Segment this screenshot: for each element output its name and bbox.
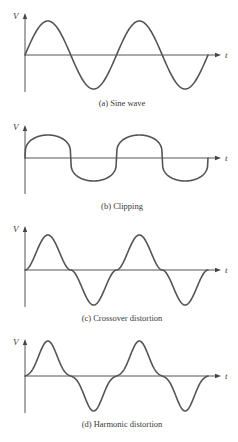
y-axis-arrow-icon xyxy=(23,226,27,232)
x-axis-label: t xyxy=(225,153,228,163)
panel-caption: (d) Harmonic distortion xyxy=(82,419,163,429)
y-axis-arrow-icon xyxy=(23,339,27,345)
y-axis-arrow-icon xyxy=(23,13,27,19)
panel-caption: (c) Crossover distortion xyxy=(82,313,163,323)
x-axis-arrow-icon xyxy=(215,374,221,378)
panel-caption: (b) Clipping xyxy=(101,201,144,211)
x-axis-arrow-icon xyxy=(215,156,221,160)
x-axis-label: t xyxy=(225,265,228,275)
y-axis-label: V xyxy=(13,11,20,21)
x-axis-arrow-icon xyxy=(215,268,221,272)
x-axis-label: t xyxy=(225,50,228,60)
y-axis-label: V xyxy=(13,337,20,347)
panel-clipping: V t (b) Clipping xyxy=(13,122,228,211)
y-axis-arrow-icon xyxy=(23,125,27,131)
panel-crossover-distortion: V t (c) Crossover distortion xyxy=(13,224,228,323)
x-axis-arrow-icon xyxy=(215,53,221,57)
waveform-distortion-figure: V t (a) Sine wave V t (b) Clipping V t (… xyxy=(0,0,238,442)
panel-sine-wave: V t (a) Sine wave xyxy=(13,11,228,108)
panel-harmonic-distortion: V t (d) Harmonic distortion xyxy=(13,337,228,429)
y-axis-label: V xyxy=(13,224,20,234)
x-axis-label: t xyxy=(225,371,228,381)
panel-caption: (a) Sine wave xyxy=(99,98,146,108)
y-axis-label: V xyxy=(13,122,20,132)
